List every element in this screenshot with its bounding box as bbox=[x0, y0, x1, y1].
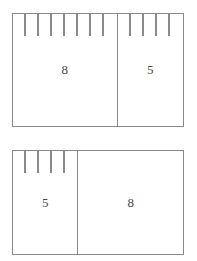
tick-mark bbox=[118, 14, 131, 36]
tick-row-top-right bbox=[118, 14, 183, 36]
tick-mark bbox=[157, 14, 170, 36]
tick-mark bbox=[170, 14, 183, 36]
bar-segment-label-top-left: 8 bbox=[13, 63, 117, 76]
tick-mark bbox=[52, 151, 65, 173]
tick-mark bbox=[65, 14, 78, 36]
tick-mark bbox=[144, 14, 157, 36]
tick-mark bbox=[131, 14, 144, 36]
tick-row-top-left bbox=[13, 14, 117, 36]
tick-row-bottom-right bbox=[78, 151, 183, 173]
tick-mark bbox=[26, 14, 39, 36]
bar-model-bottom: 5 8 bbox=[12, 150, 184, 255]
bar-segment-top-left: 8 bbox=[13, 14, 118, 126]
tick-mark bbox=[91, 14, 104, 36]
bar-segment-bottom-right: 8 bbox=[78, 151, 183, 254]
bar-model-diagram: 8 5 5 8 bbox=[0, 0, 197, 261]
tick-mark bbox=[39, 151, 52, 173]
tick-row-bottom-left bbox=[13, 151, 77, 173]
tick-mark bbox=[52, 14, 65, 36]
tick-mark bbox=[13, 14, 26, 36]
tick-mark bbox=[26, 151, 39, 173]
bar-segment-bottom-left: 5 bbox=[13, 151, 78, 254]
bar-segment-label-top-right: 5 bbox=[118, 63, 183, 76]
bar-segment-label-bottom-left: 5 bbox=[13, 196, 77, 209]
tick-mark bbox=[65, 151, 78, 173]
bar-segment-top-right: 5 bbox=[118, 14, 183, 126]
tick-mark bbox=[39, 14, 52, 36]
tick-mark bbox=[78, 14, 91, 36]
tick-mark bbox=[13, 151, 26, 173]
bar-model-top: 8 5 bbox=[12, 13, 184, 127]
tick-mark bbox=[104, 14, 117, 36]
bar-segment-label-bottom-right: 8 bbox=[78, 196, 183, 209]
